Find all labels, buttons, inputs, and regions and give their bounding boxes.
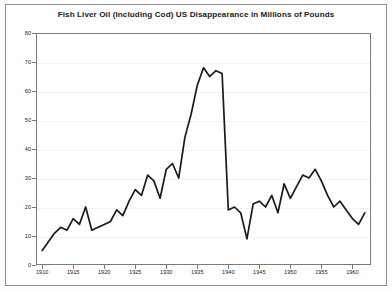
x-axis-tick-mark — [197, 265, 198, 269]
x-axis-tick-mark — [42, 265, 43, 269]
x-axis-tick-mark — [290, 265, 291, 269]
x-axis-tick-label: 1910 — [27, 269, 57, 275]
x-axis-tick-label: 1935 — [182, 269, 212, 275]
x-axis-tick-label: 1920 — [89, 269, 119, 275]
series-path-fish-liver-oil — [42, 68, 365, 251]
x-axis-tick-label: 1960 — [337, 269, 367, 275]
x-axis-tick-label: 1950 — [275, 269, 305, 275]
x-axis-tick-label: 1925 — [120, 269, 150, 275]
x-axis-tick-label: 1945 — [244, 269, 274, 275]
screenshot-frame: Fish Liver Oil (Including Cod) US Disapp… — [0, 0, 392, 291]
x-axis-tick-mark — [104, 265, 105, 269]
x-axis-tick-label: 1940 — [213, 269, 243, 275]
x-axis-tick-mark — [135, 265, 136, 269]
series-line-chart — [36, 33, 371, 265]
y-axis-tick-label: 70 — [5, 59, 31, 65]
x-axis-tick-mark — [321, 265, 322, 269]
y-axis-tick-label: 50 — [5, 117, 31, 123]
x-axis-tick-label: 1930 — [151, 269, 181, 275]
plot-wrapper — [36, 33, 371, 265]
x-axis-tick-mark — [73, 265, 74, 269]
chart-title: Fish Liver Oil (Including Cod) US Disapp… — [0, 10, 392, 19]
y-axis-tick-label: 30 — [5, 175, 31, 181]
x-axis-tick-mark — [228, 265, 229, 269]
x-axis-tick-label: 1955 — [306, 269, 336, 275]
y-axis-tick-label: 20 — [5, 204, 31, 210]
y-axis-tick-label: 60 — [5, 88, 31, 94]
y-axis-tick-label: 80 — [5, 30, 31, 36]
y-axis-tick-label: 10 — [5, 233, 31, 239]
x-axis-tick-label: 1915 — [58, 269, 88, 275]
x-axis-tick-mark — [352, 265, 353, 269]
x-axis-tick-mark — [166, 265, 167, 269]
y-axis-tick-mark — [32, 265, 36, 266]
y-axis-tick-label: 0 — [5, 262, 31, 268]
x-axis-tick-mark — [259, 265, 260, 269]
y-axis-tick-label: 40 — [5, 146, 31, 152]
